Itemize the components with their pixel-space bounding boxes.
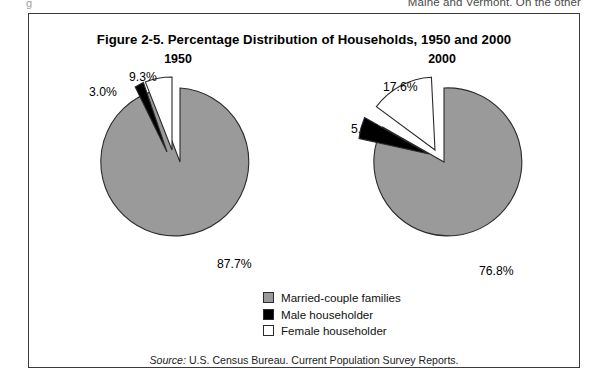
pie-label-female-2000: 17.6%	[383, 80, 418, 94]
pie-label-female-1950: 9.3%	[129, 70, 157, 84]
pie-label-married-1950: 87.7%	[217, 257, 252, 271]
figure-source-note: Source: U.S. Census Bureau. Current Popu…	[29, 354, 579, 366]
pie-slice-married-couple-1950	[101, 88, 249, 236]
pie-chart-2000	[311, 66, 573, 252]
legend-item-female-householder: Female householder	[29, 325, 579, 337]
page-running-text: g Maine and Vermont. On the other	[0, 0, 605, 10]
legend-label-married-couple: Married-couple families	[281, 292, 401, 304]
legend-label-female-householder: Female householder	[281, 325, 387, 337]
pie-panel-2000: 2000 17.6% 5.6% 76.8%	[311, 52, 573, 282]
figure-title: Figure 2-5. Percentage Distribution of H…	[29, 32, 579, 47]
legend-item-male-householder: Male householder	[29, 309, 579, 321]
pie-chart-1950	[47, 66, 309, 252]
panel-year-label-1950: 1950	[47, 52, 309, 66]
legend-swatch-male-householder	[263, 309, 274, 320]
pie-label-married-2000: 76.8%	[479, 264, 514, 278]
legend-swatch-married-couple	[263, 292, 274, 303]
running-text-right-fragment: Maine and Vermont. On the other	[408, 0, 581, 8]
source-text: U.S. Census Bureau. Current Population S…	[186, 354, 459, 366]
pie-label-male-1950: 3.0%	[89, 85, 117, 99]
running-text-left-fragment: g	[26, 0, 32, 9]
chart-legend: Married-couple families Male householder…	[29, 292, 579, 342]
legend-item-married-couple-families: Married-couple families	[29, 292, 579, 304]
pie-panel-1950: 1950 9.3% 3.0% 87.7%	[47, 52, 309, 282]
figure-container: Figure 2-5. Percentage Distribution of H…	[28, 13, 580, 368]
legend-swatch-female-householder	[263, 325, 274, 336]
legend-label-male-householder: Male householder	[281, 309, 373, 321]
source-prefix: Source:	[149, 354, 186, 366]
pie-label-male-2000: 5.6%	[351, 122, 379, 136]
panel-year-label-2000: 2000	[311, 52, 573, 66]
